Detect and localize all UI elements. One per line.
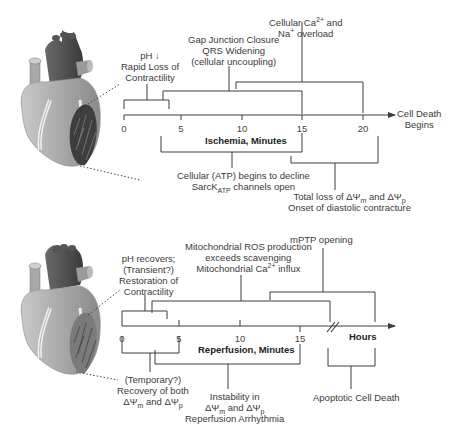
text: ΔΨ (205, 402, 219, 413)
text: overload (294, 28, 333, 39)
ph-recovers-annotation: pH recovers; (Transient?) Restoration of… (119, 253, 178, 297)
annotation-line: Instability in (185, 391, 284, 402)
total-loss-annotation: Total loss of ΔΨm and ΔΨp Onset of diast… (288, 191, 411, 213)
tick-label: 5 (176, 333, 181, 344)
annotation-line: Total loss of ΔΨm and ΔΨp (288, 191, 411, 202)
text: and (324, 17, 343, 28)
annotation-line: Gap Junction Closure (188, 34, 279, 45)
subscript: p (179, 402, 183, 409)
text: channels open (231, 181, 295, 192)
annotation-line: Contractility (119, 286, 178, 297)
reperfusion-axis-label: Reperfusion, Minutes (198, 344, 295, 355)
annotation-line: Restoration of (119, 275, 178, 286)
cell-death-line2: Begins (397, 119, 441, 130)
instability-annotation: Instability in ΔΨm and ΔΨp Reperfusion A… (185, 391, 284, 424)
text: SarcK (192, 181, 218, 192)
text: ΔΨ (123, 396, 137, 407)
tick-label: 5 (178, 123, 183, 134)
ph-drop-annotation: pH ↓ Rapid Loss of Contractility (121, 50, 179, 83)
cell-death-label: Cell Death Begins (397, 108, 441, 130)
ros-production-annotation: Mitochondrial ROS production exceeds sca… (185, 241, 312, 274)
annotation-line: (Temporary?) (117, 374, 189, 385)
tick-label: 15 (297, 123, 308, 134)
tick-label: 0 (121, 123, 126, 134)
calcium-overload-annotation: Cellular Ca2+ and Na+ overload (269, 17, 342, 39)
text: Mitochondrial Ca (196, 263, 267, 274)
tick-label: 10 (237, 123, 248, 134)
annotation-line: (Transient?) (119, 264, 178, 275)
hours-label: Hours (349, 331, 376, 342)
annotation-line: Contractility (121, 72, 179, 83)
tick-label: 20 (358, 123, 369, 134)
ischemia-axis-label: Ischemia, Minutes (205, 135, 287, 146)
annotation-line: Reperfusion Arrhythmia (185, 413, 284, 424)
superscript: 2+ (316, 16, 324, 23)
annotation-line: Cellular Ca2+ and (269, 17, 342, 28)
heart-reperfusion-illustration (21, 244, 100, 374)
atp-decline-annotation: Cellular (ATP) begins to decline SarcKAT… (177, 170, 310, 192)
annotation-line: Mitochondrial Ca2+ influx (185, 263, 312, 274)
annotation-line: Recovery of both (117, 385, 189, 396)
tick-label: 0 (119, 333, 124, 344)
annotation-line: Onset of diastolic contracture (288, 202, 411, 213)
heart-ischemia-illustration (21, 30, 100, 166)
annotation-line: QRS Widening (188, 45, 279, 56)
annotation-line: Rapid Loss of (121, 61, 179, 72)
annotation-line: Na+ overload (269, 28, 342, 39)
annotation-line: Cellular (ATP) begins to decline (177, 170, 310, 181)
text: Total loss of ΔΨ (293, 191, 360, 202)
text: influx (276, 263, 301, 274)
apoptotic-cell-death-annotation: Apoptotic Cell Death (313, 392, 400, 403)
cell-death-line1: Cell Death (397, 108, 441, 119)
annotation-line: (cellular uncoupling) (188, 56, 279, 67)
annotation-line: pH ↓ (121, 50, 179, 61)
text: and ΔΨ (225, 402, 260, 413)
text: and ΔΨ (143, 396, 178, 407)
annotation-line: exceeds scavenging (185, 252, 312, 263)
temporary-recovery-annotation: (Temporary?) Recovery of both ΔΨm and ΔΨ… (117, 374, 189, 407)
superscript: 2+ (268, 262, 276, 269)
annotation-line: pH recovers; (119, 253, 178, 264)
annotation-line: ΔΨm and ΔΨp (185, 402, 284, 413)
text: Na (278, 28, 290, 39)
text: and ΔΨ (366, 191, 401, 202)
subscript: ATP (218, 187, 231, 194)
tick-label: 10 (235, 333, 246, 344)
annotation-line: ΔΨm and ΔΨp (117, 396, 189, 407)
gap-junction-annotation: Gap Junction Closure QRS Widening (cellu… (188, 34, 279, 67)
tick-label: 15 (295, 333, 306, 344)
mptp-opening-annotation: mPTP opening (290, 234, 353, 245)
leader-line (80, 166, 140, 180)
